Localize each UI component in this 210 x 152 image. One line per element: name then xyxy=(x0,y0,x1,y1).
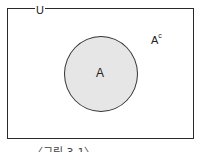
complement-label: Ac xyxy=(151,34,162,46)
figure-caption: 〈그림 3-1〉 xyxy=(32,143,95,152)
universe-label: U xyxy=(35,5,45,15)
set-a-label: A xyxy=(96,66,104,80)
complement-superscript: c xyxy=(158,32,162,39)
